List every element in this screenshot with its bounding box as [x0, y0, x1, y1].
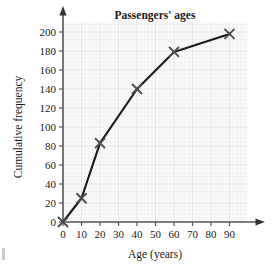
x-tick-labels: 0 10 20 30 40 50 60 70 80 90 — [60, 228, 235, 240]
chart-title: Passengers' ages — [115, 9, 196, 22]
x-axis-arrow-icon — [256, 218, 266, 225]
x-tick-label-10: 10 — [76, 228, 88, 240]
y-tick-label-200: 200 — [40, 26, 57, 38]
y-tick-label-0: 0 — [51, 216, 57, 228]
y-tick-label-180: 180 — [40, 45, 57, 57]
x-tick-label-60: 60 — [169, 228, 181, 240]
x-tick-label-80: 80 — [206, 228, 218, 240]
y-tick-label-60: 60 — [45, 159, 57, 171]
x-tick-label-30: 30 — [113, 228, 125, 240]
y-axis-title: Cumulative frequency — [12, 76, 25, 179]
x-tick-label-0: 0 — [60, 228, 66, 240]
y-tick-label-160: 160 — [40, 64, 57, 76]
x-axis-title: Age (years) — [128, 248, 182, 261]
x-tick-label-70: 70 — [187, 228, 199, 240]
y-axis-arrow-icon — [59, 6, 66, 16]
y-tick-label-20: 20 — [45, 197, 57, 209]
y-tick-label-100: 100 — [40, 121, 57, 133]
chart-canvas: 0 20 40 60 80 100 120 140 160 180 200 0 … — [0, 0, 272, 271]
y-tick-label-40: 40 — [45, 178, 57, 190]
y-tick-label-80: 80 — [45, 140, 57, 152]
x-tick-label-90: 90 — [224, 228, 236, 240]
x-tick-label-50: 50 — [150, 228, 162, 240]
y-tick-label-120: 120 — [40, 102, 57, 114]
cumulative-frequency-chart-figure: 0 20 40 60 80 100 120 140 160 180 200 0 … — [0, 0, 272, 271]
page-edge-artifact — [2, 248, 5, 260]
x-tick-label-20: 20 — [95, 228, 107, 240]
y-tick-label-140: 140 — [40, 83, 57, 95]
x-tick-label-40: 40 — [132, 228, 144, 240]
y-tick-labels: 0 20 40 60 80 100 120 140 160 180 200 — [40, 26, 57, 228]
